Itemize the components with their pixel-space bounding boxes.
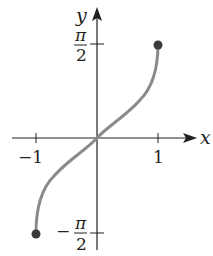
endpoint-bottom xyxy=(32,230,41,239)
x-axis-label: x xyxy=(200,126,211,148)
y-axis-label: y xyxy=(75,4,87,26)
y-tick-label-pi-top: π xyxy=(74,25,87,45)
endpoint-top xyxy=(154,41,163,50)
x-tick-label-neg1: −1 xyxy=(18,147,43,167)
y-tick-label-minus: − xyxy=(56,221,70,241)
x-tick-label-pos1: 1 xyxy=(153,147,164,167)
arcsin-graph: y x −1 1 π 2 − π 2 xyxy=(0,0,213,256)
y-tick-label-two-top: 2 xyxy=(76,45,87,65)
y-tick-label-pi-bottom: π xyxy=(74,213,87,233)
y-tick-label-two-bottom: 2 xyxy=(76,234,87,254)
